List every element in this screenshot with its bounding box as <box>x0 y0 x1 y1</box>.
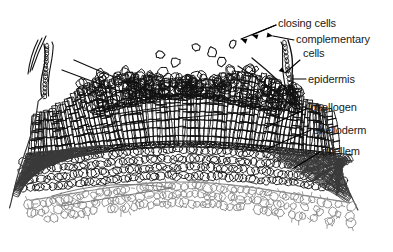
label-epidermis: epidermis <box>308 73 355 85</box>
label-phellem: phellem <box>322 145 360 157</box>
label-phellogen: phellogen <box>310 101 357 113</box>
label-complementary-cells-line1: complementary <box>296 33 370 45</box>
lenticel-figure: closing cellscomplementarycellsepidermis… <box>0 0 393 252</box>
label-complementary-cells-line2: cells <box>303 47 325 59</box>
label-phelloderm: phelloderm <box>313 124 366 136</box>
label-closing-cells: closing cells <box>278 17 337 29</box>
